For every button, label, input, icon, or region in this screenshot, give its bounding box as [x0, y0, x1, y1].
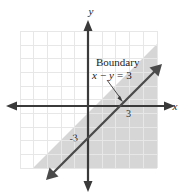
x-axis-label: x — [172, 100, 178, 112]
equation-equals-operator: = — [117, 69, 123, 81]
coordinate-plane-svg: y x Boundary x−y=3 3 -3 — [0, 0, 186, 196]
y-axis-label: y — [88, 5, 94, 17]
boundary-annotation-label: Boundary — [96, 56, 140, 68]
equation-minus-operator: − — [100, 69, 106, 81]
equation-lhs: x — [91, 69, 97, 81]
y-intercept-tick-label: -3 — [69, 132, 79, 144]
equation-value: 3 — [126, 69, 132, 81]
equation-rhs: y — [108, 69, 114, 81]
graph-figure: y x Boundary x−y=3 3 -3 — [0, 0, 186, 196]
x-intercept-tick-label: 3 — [126, 108, 131, 119]
